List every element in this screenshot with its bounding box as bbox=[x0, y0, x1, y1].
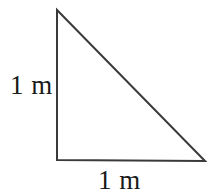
dimension-label-vertical-leg: 1 m bbox=[10, 72, 53, 99]
dimension-label-horizontal-leg: 1 m bbox=[98, 167, 141, 194]
right-triangle-outline bbox=[57, 10, 205, 161]
right-triangle-figure: 1 m 1 m bbox=[0, 0, 214, 195]
